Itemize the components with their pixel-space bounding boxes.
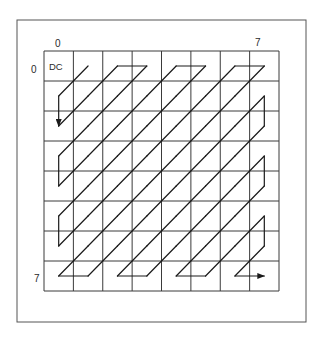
dc-label: DC <box>49 61 63 72</box>
row-label-first: 0 <box>31 64 37 75</box>
col-label-first: 0 <box>55 38 61 49</box>
zigzag-diagram: 0 7 0 7 DC <box>0 0 323 340</box>
col-label-last: 7 <box>255 37 261 48</box>
row-label-last: 7 <box>34 273 40 284</box>
